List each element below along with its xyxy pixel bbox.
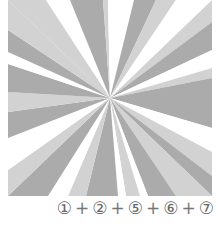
plus-sign: + bbox=[111, 198, 125, 218]
choice-5: ⑤ bbox=[128, 198, 143, 218]
plus-sign: + bbox=[146, 198, 160, 218]
choice-2: ② bbox=[92, 198, 107, 218]
choice-6: ⑥ bbox=[163, 198, 178, 218]
sunburst-figure bbox=[8, 0, 212, 196]
choice-7: ⑦ bbox=[199, 198, 214, 218]
plus-sign: + bbox=[75, 198, 89, 218]
answer-caption: ①+②+⑤+⑥+⑦ bbox=[0, 198, 214, 218]
choice-1: ① bbox=[57, 198, 72, 218]
plus-sign: + bbox=[182, 198, 196, 218]
